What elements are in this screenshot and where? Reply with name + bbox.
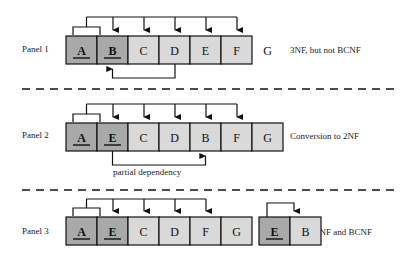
panel-2-cell-2-text: C bbox=[139, 131, 147, 145]
panel-3-left-cell-2-text: C bbox=[139, 225, 147, 239]
panel-3-right-cell-1-text: B bbox=[301, 225, 309, 239]
panel-2-cell-5-text: F bbox=[233, 131, 240, 145]
panel-2-cell-3-text: D bbox=[170, 131, 179, 145]
panel-2-cell-0-text: A bbox=[77, 131, 86, 145]
panel-3-left-cell-3-text: D bbox=[170, 225, 179, 239]
panel-3-left-cell-1-text: E bbox=[108, 225, 116, 239]
panel-2-table: A E C D B F G bbox=[66, 123, 283, 151]
panel-2-cell-4-text: B bbox=[201, 131, 209, 145]
panel-2-cell-6-text: G bbox=[263, 131, 272, 145]
panel-2-bottom-dependency bbox=[113, 151, 206, 165]
panel-3-left-cell-4-text: F bbox=[202, 225, 209, 239]
panel-3-left-cell-0-text: A bbox=[77, 225, 86, 239]
panel-3-table-left: A E C D F G bbox=[66, 217, 252, 245]
panel-3-table-right: E B bbox=[259, 217, 321, 245]
diagram-artwork-overlay: A E C D B F G A E C D F G E B bbox=[0, 0, 406, 272]
panel-3-left-cell-5-text: G bbox=[232, 225, 241, 239]
panel-1-bottom-dependency bbox=[113, 64, 176, 78]
panel-2-cell-1-text: E bbox=[108, 131, 116, 145]
panel-3-right-cell-0-text: E bbox=[270, 225, 278, 239]
